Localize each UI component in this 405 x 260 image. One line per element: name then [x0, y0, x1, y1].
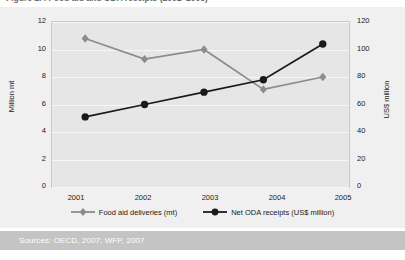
x-axis-tick: 2005: [323, 194, 363, 202]
legend-item-net-oda[interactable]: Net ODA receipts (US$ million): [203, 203, 334, 221]
y-axis-left-title: Million mt: [7, 67, 16, 127]
series-plot: [52, 22, 349, 187]
chart-legend: Food aid deliveries (mt) Net ODA receipt…: [0, 203, 405, 221]
y-axis-right-title: US$ million: [382, 69, 391, 131]
diamond-marker-icon: [71, 203, 95, 221]
y-left-tick: 8: [24, 72, 46, 80]
figure-title-clipped: Figure 1.4 Food aid and ODA receipts (20…: [0, 0, 405, 7]
sources-band: Sources: OECD, 2007; WFP, 2007: [0, 231, 405, 250]
data-point-circle[interactable]: [141, 101, 148, 108]
y-left-tick: 4: [24, 127, 46, 135]
x-axis-tick: 2003: [190, 194, 230, 202]
x-axis-tick: 2002: [123, 194, 163, 202]
y-right-tick: 100: [357, 45, 381, 53]
chart-panel: 12 10 8 6 4 2 0 120 100 80 60 40 20 0 Mi…: [0, 7, 405, 228]
legend-label: Food aid deliveries (mt): [99, 208, 177, 217]
y-left-tick: 2: [24, 155, 46, 163]
series-group: [82, 34, 327, 120]
series-line: [85, 44, 323, 117]
plot-area: [51, 21, 350, 188]
data-point-circle[interactable]: [82, 113, 89, 120]
legend-item-food-aid[interactable]: Food aid deliveries (mt): [71, 203, 177, 221]
y-right-tick: 80: [357, 72, 381, 80]
legend-label: Net ODA receipts (US$ million): [231, 208, 334, 217]
y-right-tick: 60: [357, 100, 381, 108]
data-point-diamond[interactable]: [82, 34, 89, 42]
gridline: [52, 187, 349, 188]
y-left-tick: 10: [24, 45, 46, 53]
circle-marker-icon: [203, 203, 227, 221]
data-point-diamond[interactable]: [141, 55, 148, 63]
x-axis-tick: 2004: [257, 194, 297, 202]
data-point-diamond[interactable]: [260, 85, 267, 93]
data-point-diamond[interactable]: [200, 45, 207, 53]
y-right-tick: 20: [357, 155, 381, 163]
data-point-diamond[interactable]: [319, 73, 326, 81]
data-point-circle[interactable]: [260, 76, 267, 83]
data-point-circle[interactable]: [200, 88, 207, 95]
y-right-tick: 40: [357, 127, 381, 135]
sources-text: Sources: OECD, 2007; WFP, 2007: [19, 236, 145, 245]
y-left-tick: 6: [24, 100, 46, 108]
x-axis-tick: 2001: [56, 194, 96, 202]
data-point-circle[interactable]: [319, 40, 326, 47]
y-left-tick: 12: [24, 17, 46, 25]
figure-title-text: Figure 1.4 Food aid and ODA receipts (20…: [6, 0, 208, 3]
y-right-tick: 120: [357, 17, 381, 25]
y-left-tick: 0: [24, 182, 46, 190]
y-right-tick: 0: [357, 182, 381, 190]
